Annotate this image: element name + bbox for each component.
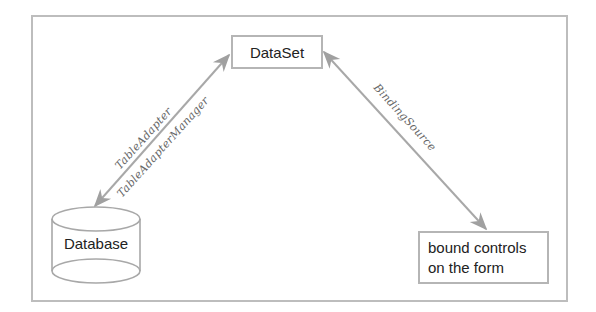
bound-controls-line1: bound controls	[428, 238, 547, 258]
dataset-database-arrow	[95, 55, 229, 206]
bound-controls-line2: on the form	[428, 258, 547, 278]
bound-controls-node: bound controls on the form	[418, 231, 549, 284]
dataset-label: DataSet	[250, 44, 304, 61]
dataset-bound-arrow	[324, 52, 486, 229]
bindingsource-label: BindingSource	[370, 81, 439, 154]
database-label: Database	[52, 235, 140, 252]
dataset-node: DataSet	[231, 35, 323, 69]
